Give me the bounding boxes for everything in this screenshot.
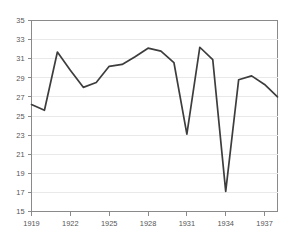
y-axis-tick-label: 33 (16, 35, 24, 44)
y-axis-tick-label: 15 (16, 207, 24, 216)
y-axis-tick-label: 19 (16, 169, 24, 178)
x-axis-tick-label: 1934 (217, 219, 233, 228)
x-axis-tick-label: 1919 (23, 219, 39, 228)
y-axis-tick-label: 29 (16, 74, 24, 83)
y-axis-tick-label: 25 (16, 112, 24, 121)
y-axis-tick-label: 17 (16, 188, 24, 197)
x-axis-tick-label: 1925 (101, 219, 117, 228)
x-axis-tick-label: 1937 (256, 219, 272, 228)
y-axis-tick-label: 23 (16, 131, 24, 140)
y-axis-tick-label: 27 (16, 93, 24, 102)
x-axis-tick-label: 1922 (62, 219, 78, 228)
y-axis-tick-label: 31 (16, 54, 24, 63)
x-axis-tick-label: 1928 (140, 219, 156, 228)
y-axis-tick-label: 35 (16, 16, 24, 25)
chart-canvas: 3533312927252321191715 19191922192519281… (0, 0, 292, 241)
line-chart: 3533312927252321191715 19191922192519281… (0, 0, 292, 241)
y-axis-tick-label: 21 (16, 150, 24, 159)
x-axis-tick-label: 1931 (179, 219, 195, 228)
